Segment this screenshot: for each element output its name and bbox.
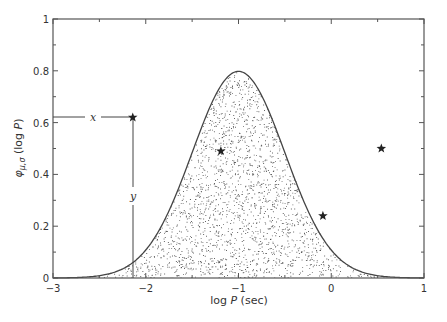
x-tick-label: −3 <box>46 283 61 294</box>
axis-ticks <box>53 19 424 278</box>
x-annotation-label: x <box>90 111 97 124</box>
stippled-density-fill <box>66 72 385 279</box>
y-annotation-label: y <box>129 190 137 203</box>
gaussian-curve <box>53 71 424 278</box>
y-tick-label: 0.8 <box>33 66 49 77</box>
x-tick-label: 0 <box>328 283 334 294</box>
x-tick-label: 1 <box>421 283 427 294</box>
axis-tick-labels: −3−2−10100.20.40.60.81 <box>33 14 427 294</box>
y-tick-label: 0 <box>43 273 49 284</box>
x-tick-label: −2 <box>138 283 153 294</box>
x-tick-label: −1 <box>231 283 246 294</box>
chart: −3−2−10100.20.40.60.81 x y log P (sec) φ… <box>0 0 447 322</box>
plot-frame <box>53 19 424 278</box>
y-tick-label: 0.2 <box>33 221 49 232</box>
y-axis-label: φμ,σ (log P) <box>12 119 27 178</box>
star-marker <box>318 211 328 220</box>
y-tick-label: 0.6 <box>33 118 49 129</box>
y-tick-label: 1 <box>43 14 49 25</box>
x-axis-label: log P (sec) <box>210 294 268 307</box>
y-tick-label: 0.4 <box>33 169 49 180</box>
star-marker <box>377 144 387 153</box>
star-markers <box>128 112 386 219</box>
